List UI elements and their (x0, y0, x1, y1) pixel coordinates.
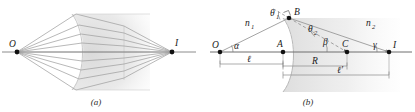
panel-a: O I (a) (2, 14, 196, 107)
angle-gamma-label: γ (373, 40, 377, 50)
index-label-n1: n 1 (245, 18, 254, 30)
point-B-b-label: B (294, 7, 300, 17)
optics-figure: O I (a) (0, 0, 415, 112)
point-O-b-label: O (212, 40, 219, 50)
panel-b-caption: (b) (303, 97, 314, 107)
index-n2-symbol: n (366, 18, 371, 28)
image-point-a-label: I (174, 38, 179, 48)
dimension-l (220, 52, 283, 68)
arc-alpha (232, 46, 234, 53)
angle-theta1-subscript: 1 (276, 13, 279, 20)
point-A-b-label: A (276, 39, 283, 49)
distance-R-label: R (311, 56, 318, 66)
panel-b: ℓ R ℓ′ O A B (210, 7, 412, 107)
angle-beta-label: β (322, 37, 328, 47)
distance-l-label: ℓ (247, 54, 251, 64)
index-n1-subscript: 1 (251, 23, 254, 30)
panel-a-caption: (a) (91, 97, 102, 107)
point-C-b-label: C (342, 39, 349, 49)
right-angle-mark (284, 11, 291, 16)
angle-theta1-symbol: θ (270, 8, 275, 18)
object-point-a-label: O (9, 39, 16, 49)
medium-region-b (283, 18, 400, 92)
distance-l-prime-label: ℓ′ (337, 65, 344, 75)
index-n1-symbol: n (245, 18, 250, 28)
angle-label-theta1: θ 1 (270, 8, 279, 20)
angle-theta2-symbol: θ (308, 24, 313, 34)
